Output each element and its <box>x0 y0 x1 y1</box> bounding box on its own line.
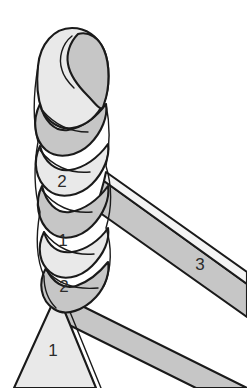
braid-illustration: Three-strand flat braid diagram Line dra… <box>0 0 247 388</box>
strand-3-band <box>96 172 247 317</box>
strand-label-2-lower: 2 <box>59 277 68 296</box>
braid-body <box>34 28 110 312</box>
strand-3-face <box>96 181 247 317</box>
strand-label-2-upper: 2 <box>57 172 66 191</box>
strand-label-1-middle: 1 <box>58 231 67 250</box>
braid-drawing: Three-strand flat braid diagram Line dra… <box>0 0 247 388</box>
strand-label-3-right: 3 <box>195 255 204 274</box>
strand-label-1-bottom: 1 <box>48 341 57 360</box>
